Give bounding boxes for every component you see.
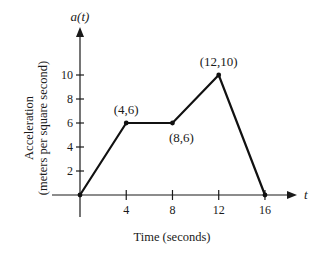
x-tick-label: 12 — [213, 203, 225, 217]
data-point — [216, 73, 221, 78]
chart: t a(t) 481216 246810 (4,6)(8,6)(12,10) T… — [0, 0, 321, 253]
point-annotation: (4,6) — [114, 102, 139, 117]
x-axis-variable: t — [304, 187, 308, 202]
y-axis-variable: a(t) — [71, 9, 90, 24]
y-tick-label: 6 — [67, 116, 73, 130]
y-tick-label: 2 — [67, 164, 73, 178]
annotations: (4,6)(8,6)(12,10) — [114, 54, 238, 145]
y-tick-label: 8 — [67, 92, 73, 106]
y-axis-title-line-2: (meters per square second) — [36, 61, 50, 195]
y-axis-title-line-1: Acceleration — [22, 95, 36, 160]
x-ticks: 481216 — [123, 190, 271, 217]
point-annotation: (8,6) — [169, 130, 194, 145]
x-tick-label: 8 — [169, 203, 175, 217]
x-tick-label: 4 — [123, 203, 129, 217]
point-annotation: (12,10) — [200, 54, 238, 69]
x-tick-label: 16 — [259, 203, 271, 217]
data-point — [263, 193, 268, 198]
axes: t a(t) — [52, 9, 308, 217]
y-tick-label: 10 — [61, 68, 73, 82]
y-tick-label: 4 — [67, 140, 73, 154]
data-point — [124, 121, 129, 126]
x-axis-title: Time (seconds) — [134, 230, 211, 244]
x-axis-arrow-icon — [287, 191, 297, 199]
data-point — [78, 193, 83, 198]
y-axis-arrow-icon — [76, 27, 84, 37]
data-point — [170, 121, 175, 126]
